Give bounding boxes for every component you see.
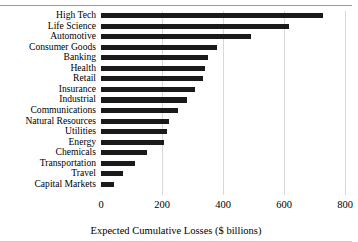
bar [101, 97, 187, 102]
bar [101, 140, 164, 145]
bar-row [101, 169, 345, 180]
bar [101, 108, 178, 113]
bar-row [101, 148, 345, 159]
bar-row [101, 127, 345, 138]
category-label: Capital Markets [0, 179, 96, 189]
category-label: Banking [0, 52, 96, 62]
x-tick-label: 200 [132, 199, 192, 211]
category-label: Energy [0, 137, 96, 147]
category-label: Health [0, 63, 96, 73]
bar-row [101, 11, 345, 22]
x-tick-label: 0 [71, 199, 131, 211]
bar-row [101, 159, 345, 170]
x-axis-tick-labels: 0200400600800 [0, 199, 352, 213]
bar-row [101, 64, 345, 75]
category-label: Natural Resources [0, 116, 96, 126]
bar-row [101, 138, 345, 149]
category-label: Consumer Goods [0, 42, 96, 52]
bar [101, 150, 147, 155]
bar [101, 66, 205, 71]
bar-row [101, 32, 345, 43]
category-label: Automotive [0, 31, 96, 41]
category-label: Insurance [0, 84, 96, 94]
top-divider-rule [0, 5, 352, 6]
bar-row [101, 117, 345, 128]
category-label: Transportation [0, 158, 96, 168]
bar [101, 182, 114, 187]
category-axis-labels: High TechLife ScienceAutomotiveConsumer … [0, 11, 98, 195]
bar [101, 76, 203, 81]
category-label: Travel [0, 168, 96, 178]
bar-row [101, 43, 345, 54]
bar-row [101, 22, 345, 33]
bar-row [101, 85, 345, 96]
bar [101, 129, 167, 134]
bar-row [101, 106, 345, 117]
x-axis-title: Expected Cumulative Losses ($ billions) [0, 224, 352, 237]
category-label: Retail [0, 73, 96, 83]
bar [101, 161, 135, 166]
bar [101, 13, 323, 18]
category-label: Communications [0, 105, 96, 115]
bar [101, 45, 217, 50]
bar [101, 34, 251, 39]
bar-row [101, 74, 345, 85]
bar [101, 119, 169, 124]
bar [101, 87, 195, 92]
plot-area [101, 11, 345, 195]
bar [101, 55, 208, 60]
gridline-800 [345, 11, 346, 195]
category-label: Chemicals [0, 147, 96, 157]
category-label: Utilities [0, 126, 96, 136]
x-tick-label: 600 [254, 199, 314, 211]
bar-row [101, 53, 345, 64]
x-tick-label: 800 [315, 199, 358, 211]
bar-row [101, 180, 345, 191]
bar-row [101, 95, 345, 106]
bar [101, 171, 123, 176]
x-tick-label: 400 [193, 199, 253, 211]
category-label: High Tech [0, 10, 96, 20]
category-label: Industrial [0, 94, 96, 104]
bar [101, 24, 289, 29]
category-label: Life Science [0, 21, 96, 31]
